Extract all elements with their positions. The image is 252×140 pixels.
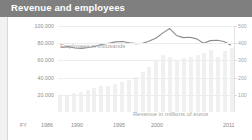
y-tick-label-right: 100 <box>238 92 247 98</box>
y-tick-label-right: 300 <box>238 57 247 63</box>
y-tick-label-left: 20.000 <box>38 92 54 98</box>
x-tick-label: FY <box>20 122 27 128</box>
x-tick-label: 1990 <box>71 122 83 128</box>
y-tick-label-left: 40.000 <box>38 75 54 81</box>
y-tick-label-right: 400 <box>238 40 247 46</box>
page-title: Revenue and employees <box>11 2 125 13</box>
x-tick-label: 2000 <box>151 122 163 128</box>
line-series-employees <box>58 26 234 112</box>
y-tick-label-right: 200 <box>238 75 247 81</box>
y-axis-left-labels: 100.00080.00060.00040.00020.000 <box>8 17 56 122</box>
y-tick-label-left: 100.000 <box>35 23 54 29</box>
axis-tick <box>234 60 237 61</box>
axis-tick <box>234 95 237 96</box>
axis-tick <box>234 43 237 44</box>
x-tick-label: 2011 <box>223 122 235 128</box>
y-tick-label-left: 80.000 <box>38 40 54 46</box>
right-axis-line <box>234 26 235 112</box>
gridline <box>58 78 234 79</box>
plot-area <box>58 26 234 112</box>
chart-panel: 100.00080.00060.00040.00020.000 50040030… <box>7 17 252 140</box>
y-tick-label-left: 60.000 <box>38 57 54 63</box>
gridline <box>58 60 234 61</box>
x-tick-label: 1995 <box>113 122 125 128</box>
x-axis-labels: FY19861990199520002011 <box>8 120 252 134</box>
y-tick-label-right: 500 <box>238 23 247 29</box>
gridline <box>58 95 234 96</box>
y-axis-right-labels: 500400300200100 <box>236 17 252 122</box>
annotation-revenue: Revenue in millions of euros <box>133 111 208 117</box>
x-tick-label: 1986 <box>41 122 53 128</box>
annotation-employees: Employees in thousands <box>60 43 125 49</box>
gridline <box>58 26 234 27</box>
axis-tick <box>234 78 237 79</box>
chart-widget: Revenue and employees 100.00080.00060.00… <box>0 0 252 140</box>
chart-title-bar: Revenue and employees <box>0 0 252 17</box>
axis-tick <box>234 26 237 27</box>
